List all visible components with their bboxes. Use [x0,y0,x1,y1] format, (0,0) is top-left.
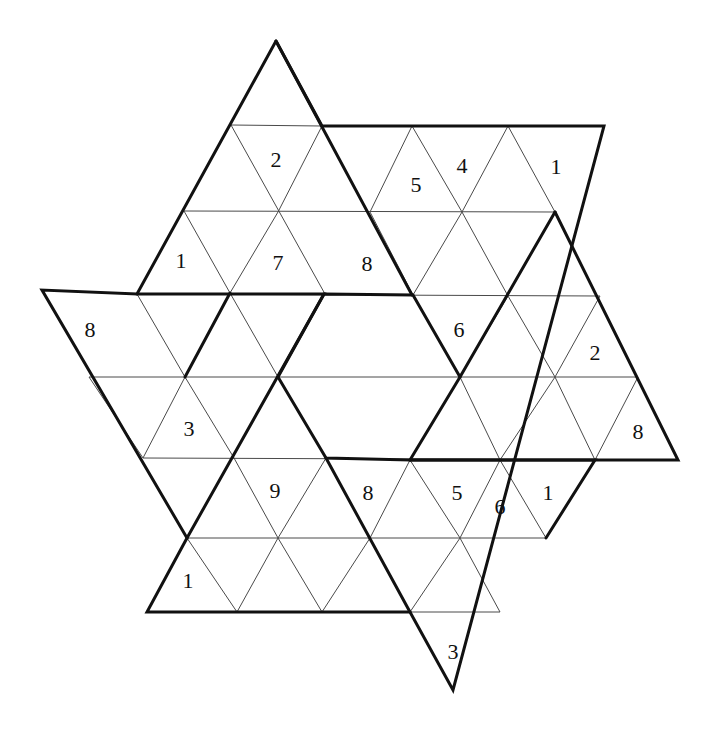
given-digit: 1 [176,250,187,272]
grid-line [370,126,412,212]
grid-line [237,538,278,612]
given-digit: 2 [590,342,601,364]
region-borders [42,41,678,690]
grid-line [322,538,370,612]
grid-line [508,126,555,212]
given-digit: 3 [184,418,195,440]
grid-line [413,212,462,295]
grid-line [230,212,278,293]
grid-line [410,538,460,612]
grid-line [460,377,500,460]
given-digit: 5 [452,482,463,504]
grid-line [137,294,185,377]
grid-line [184,211,230,293]
grid-line [184,211,555,212]
grid-line [370,460,410,538]
given-digit: 7 [273,252,284,274]
given-digit: 4 [457,155,468,177]
grid-line [500,460,546,538]
given-digit: 8 [363,482,374,504]
grid-line [555,377,595,460]
region-border [185,293,230,377]
grid-line [278,458,326,538]
grid-line [500,377,555,460]
given-digit: 1 [183,570,194,592]
given-digit: 9 [270,480,281,502]
given-digit: 1 [551,156,562,178]
puzzle-board [0,0,719,736]
grid-line [231,125,322,126]
grid-line [143,377,185,458]
grid-line [460,538,500,612]
given-digit: 8 [362,253,373,275]
region-border [42,41,604,690]
given-digit: 3 [448,641,459,663]
grid-line [412,126,462,212]
grid-line [230,293,278,377]
given-digit: 6 [454,319,465,341]
grid-line [278,538,322,612]
given-digit: 6 [495,496,506,518]
grid-line [187,538,237,612]
given-digit: 8 [633,421,644,443]
given-digit: 8 [85,319,96,341]
given-digit: 5 [411,174,422,196]
grid-line [462,212,508,296]
given-digit: 1 [543,482,554,504]
grid-line [278,126,322,212]
given-digit: 2 [271,149,282,171]
grid-line [462,126,508,212]
